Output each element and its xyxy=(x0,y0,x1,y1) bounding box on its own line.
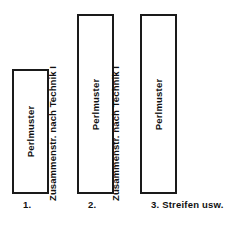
panel-3-caption: 3. Streifen usw. xyxy=(151,199,224,210)
panel-3-label: Perlmuster xyxy=(153,78,164,130)
panel-3: Perlmuster xyxy=(140,14,177,194)
panel-1-caption: 1. xyxy=(23,199,31,210)
panel-2-label: Perlmuster xyxy=(90,78,101,130)
panel-2-caption: 2. xyxy=(88,199,96,210)
panel-2: Perlmuster xyxy=(77,14,114,194)
panel-1-label: Perlmuster xyxy=(25,106,36,158)
panel-1: Perlmuster xyxy=(12,69,49,194)
separator-label-2: Zusammenstr. nach Technik I xyxy=(110,66,121,201)
schematic-diagram: Perlmuster Zusammenstr. nach Technik I P… xyxy=(0,0,233,234)
separator-label-1: Zusammenstr. nach Technik I xyxy=(47,66,58,201)
